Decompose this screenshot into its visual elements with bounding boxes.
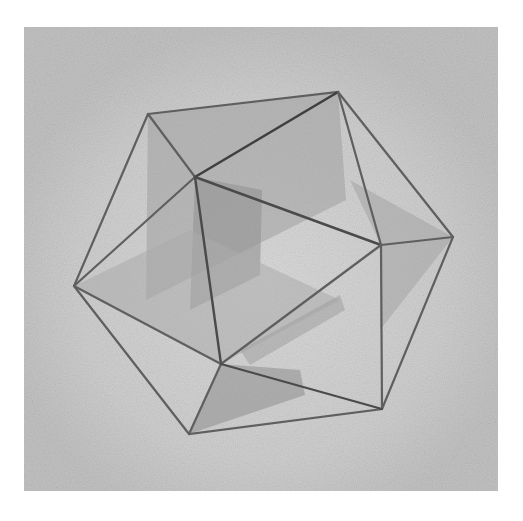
icosahedron-drawing (0, 0, 523, 521)
